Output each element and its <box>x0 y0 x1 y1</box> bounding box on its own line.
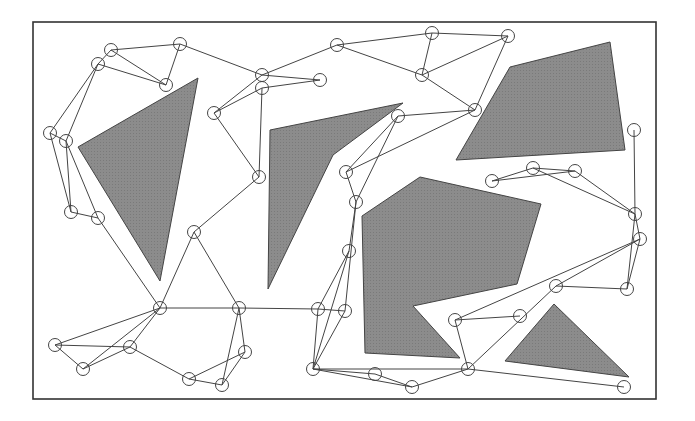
roadmap-edge <box>455 320 468 369</box>
roadmap-edge <box>432 33 508 36</box>
roadmap-edge <box>50 133 66 141</box>
roadmap-edge <box>412 369 468 387</box>
roadmap-edge <box>262 75 320 80</box>
roadmap-edge <box>55 308 160 345</box>
roadmap-edge <box>214 88 262 113</box>
roadmap-edge <box>55 345 130 347</box>
roadmap-edge <box>239 308 318 309</box>
roadmap-edge <box>262 45 337 75</box>
obstacle-bottom-right-triangle <box>505 304 629 377</box>
roadmap-edge <box>189 352 245 379</box>
roadmap-edge <box>455 316 520 320</box>
roadmap-edge <box>313 311 345 369</box>
obstacles-layer <box>78 42 629 377</box>
roadmap-edge <box>313 369 412 387</box>
roadmap-edge <box>214 75 262 113</box>
roadmap-edge <box>55 345 83 369</box>
roadmap-edge <box>575 171 635 214</box>
roadmap-edge <box>111 44 180 50</box>
roadmap-edge <box>492 171 575 181</box>
roadmap-edge <box>214 113 259 177</box>
roadmap-edge <box>313 369 375 374</box>
roadmap-edge <box>533 168 635 214</box>
roadmap-edge <box>189 379 222 385</box>
roadmap-edge <box>130 308 160 347</box>
obstacle-left-triangle <box>78 78 198 281</box>
roadmap-edge <box>194 232 239 308</box>
roadmap-edge <box>556 286 627 289</box>
roadmap-edge <box>83 308 160 369</box>
roadmap-edge <box>337 45 422 75</box>
roadmap-edge <box>375 374 412 387</box>
roadmap-diagram <box>0 0 695 421</box>
roadmap-edge <box>635 214 640 239</box>
roadmap-canvas <box>0 0 695 421</box>
roadmap-edge <box>130 347 189 379</box>
roadmap-edge <box>627 239 640 289</box>
roadmap-edge <box>194 177 259 232</box>
roadmap-edge <box>98 64 166 85</box>
roadmap-edge <box>422 36 508 75</box>
roadmap-edge <box>337 33 432 45</box>
roadmap-edge <box>634 130 635 214</box>
roadmap-edge <box>259 88 262 177</box>
roadmap-edge <box>556 239 640 286</box>
roadmap-edge <box>422 75 475 110</box>
roadmap-edge <box>345 202 356 311</box>
roadmap-edge <box>627 214 635 289</box>
obstacle-center <box>362 177 541 358</box>
obstacle-top-right <box>456 42 625 160</box>
roadmap-edge <box>111 50 166 85</box>
roadmap-edge <box>180 44 262 75</box>
roadmap-edge <box>262 80 320 88</box>
